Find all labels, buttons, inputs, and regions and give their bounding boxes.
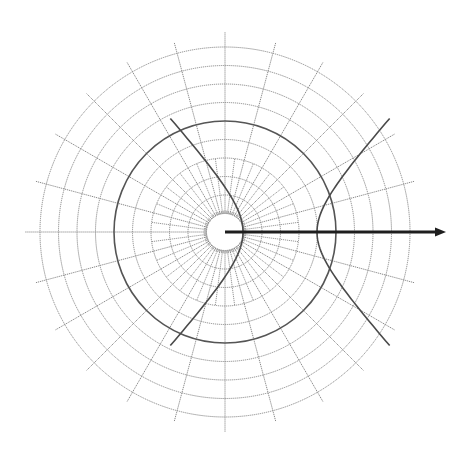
grid-minor-spoke xyxy=(243,222,298,229)
inner-tick xyxy=(204,228,207,229)
grid-spoke xyxy=(234,248,323,402)
grid-spoke xyxy=(36,181,207,227)
arrowhead-icon xyxy=(435,228,446,237)
grid-spoke xyxy=(86,245,212,371)
grid-minor-spoke xyxy=(243,234,298,241)
inner-tick xyxy=(210,217,212,219)
inner-tick xyxy=(230,211,231,214)
inner-tick xyxy=(204,235,207,236)
grid-spoke xyxy=(243,181,414,227)
grid-minor-spoke xyxy=(227,250,234,305)
grid-minor-spoke xyxy=(152,234,207,241)
grid-spoke xyxy=(234,62,323,216)
inner-tick xyxy=(230,250,231,253)
inner-tick xyxy=(221,211,222,214)
inner-tick xyxy=(219,211,220,214)
inner-tick xyxy=(204,226,207,227)
grid-spoke xyxy=(238,245,364,371)
inner-tick xyxy=(210,245,212,247)
grid-spoke xyxy=(230,250,276,421)
grid-spoke xyxy=(174,43,220,214)
grid-minor-spoke xyxy=(227,159,234,214)
grid-minor-spoke xyxy=(152,222,207,229)
grid-spoke xyxy=(243,237,414,283)
grid-minor-spoke xyxy=(215,250,222,305)
inner-tick xyxy=(219,250,220,253)
grid-minor-spoke xyxy=(215,159,222,214)
grid-spoke xyxy=(55,134,209,223)
grid-spoke xyxy=(174,250,220,421)
grid-spoke xyxy=(86,93,212,219)
inner-tick xyxy=(228,250,229,253)
polar-grid-diagram xyxy=(0,0,468,459)
inner-tick xyxy=(221,250,222,253)
grid-spoke xyxy=(238,93,364,219)
grid-spoke xyxy=(230,43,276,214)
inner-tick xyxy=(228,211,229,214)
inner-tick xyxy=(204,237,207,238)
grid-spoke xyxy=(36,237,207,283)
